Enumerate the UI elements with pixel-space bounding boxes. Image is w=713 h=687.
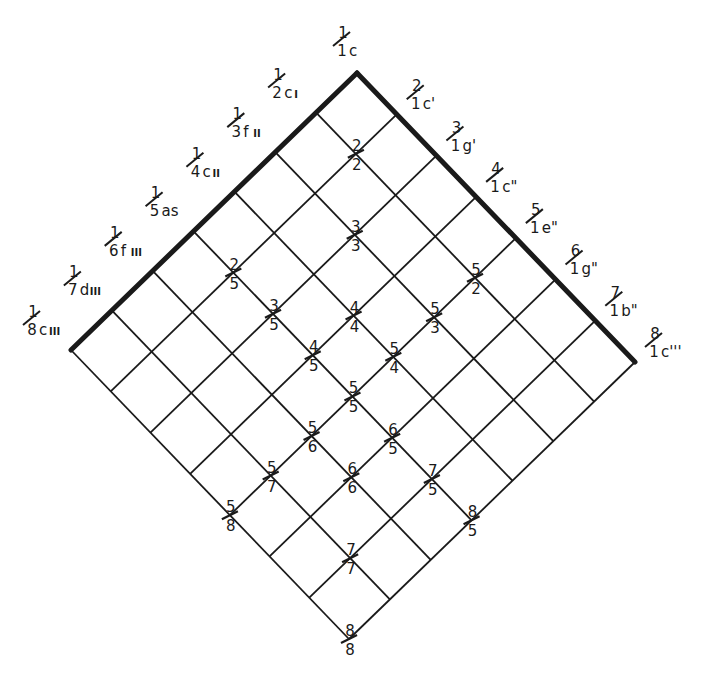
octave-mark: III bbox=[131, 247, 142, 258]
edge-label-undertone: 18cIII bbox=[23, 303, 60, 339]
octave-mark: III bbox=[49, 326, 60, 337]
grid-line-denominator-direction bbox=[150, 156, 436, 433]
interior-ratio: 56 bbox=[304, 416, 320, 456]
edge-label-overtone: 31g' bbox=[446, 119, 476, 155]
interior-ratio: 33 bbox=[347, 215, 363, 255]
denominator: 2 bbox=[471, 280, 481, 298]
octave-mark: II bbox=[212, 168, 219, 179]
note-name: g' bbox=[462, 137, 476, 155]
octave-mark: I bbox=[294, 89, 298, 100]
denominator: 1 bbox=[610, 302, 620, 320]
note-name: e" bbox=[542, 219, 558, 237]
edge-label-overtone: 21c' bbox=[407, 77, 435, 113]
denominator: 2 bbox=[272, 84, 282, 102]
denominator: 2 bbox=[352, 156, 362, 174]
overtone-edge bbox=[357, 73, 635, 362]
denominator: 6 bbox=[109, 242, 119, 260]
interior-ratio: 85 bbox=[464, 500, 480, 540]
interior-ratio-labels: 22334455667788253545565758525354657585 bbox=[222, 134, 483, 659]
edge-label-undertone: 16fIII bbox=[105, 224, 142, 260]
denominator: 4 bbox=[191, 163, 201, 181]
interior-ratio: 35 bbox=[265, 294, 281, 334]
edge-label-undertone: 15as bbox=[146, 184, 179, 220]
denominator: 8 bbox=[27, 321, 37, 339]
interior-ratio: 52 bbox=[467, 258, 483, 298]
octave-mark: II bbox=[253, 128, 260, 139]
denominator: 5 bbox=[230, 275, 240, 293]
note-name: c bbox=[349, 42, 357, 60]
denominator: 5 bbox=[428, 481, 438, 499]
denominator: 1 bbox=[337, 42, 347, 60]
denominator: 5 bbox=[150, 202, 160, 220]
edge-label-top: 11c bbox=[333, 24, 357, 60]
denominator: 1 bbox=[530, 219, 540, 237]
interior-ratio: 44 bbox=[346, 296, 362, 336]
edge-label-undertone: 13fII bbox=[227, 105, 260, 141]
denominator: 5 bbox=[468, 522, 478, 540]
edge-label-undertone: 12cI bbox=[268, 66, 298, 102]
interior-ratio: 88 bbox=[341, 619, 357, 659]
note-name: f bbox=[243, 123, 249, 141]
edge-label-overtone: 61g" bbox=[566, 242, 598, 278]
edge-label-overtone: 71b" bbox=[605, 284, 637, 320]
note-name: b" bbox=[621, 302, 637, 320]
grid-line-numerator-direction bbox=[153, 271, 431, 560]
octave-mark: III bbox=[90, 286, 101, 297]
interior-ratio: 55 bbox=[344, 376, 360, 416]
interior-ratio: 75 bbox=[424, 459, 440, 499]
note-name: d bbox=[80, 281, 90, 299]
denominator: 5 bbox=[269, 316, 279, 334]
note-name: c bbox=[284, 84, 292, 102]
denominator: 3 bbox=[430, 319, 440, 337]
interior-ratio: 54 bbox=[385, 337, 401, 377]
note-name: c" bbox=[502, 178, 517, 196]
interior-ratio: 58 bbox=[222, 495, 238, 535]
interior-ratio: 45 bbox=[305, 335, 321, 375]
note-name: c bbox=[39, 321, 47, 339]
denominator: 3 bbox=[351, 237, 361, 255]
denominator: 1 bbox=[451, 137, 461, 155]
denominator: 7 bbox=[346, 560, 356, 578]
denominator: 5 bbox=[349, 398, 359, 416]
grid-line-numerator-direction bbox=[71, 350, 349, 639]
denominator: 8 bbox=[345, 641, 355, 659]
interior-ratio: 25 bbox=[225, 253, 241, 293]
grid-line-denominator-direction bbox=[349, 362, 635, 639]
note-name: c''' bbox=[661, 343, 682, 361]
denominator: 4 bbox=[350, 318, 360, 336]
denominator: 5 bbox=[388, 440, 398, 458]
denominator: 5 bbox=[309, 357, 319, 375]
undertone-edge bbox=[71, 73, 357, 350]
interior-ratio: 57 bbox=[263, 456, 279, 496]
denominator: 6 bbox=[348, 479, 358, 497]
edge-label-overtone: 41c" bbox=[486, 160, 517, 196]
denominator: 1 bbox=[570, 260, 580, 278]
note-name: c bbox=[202, 163, 210, 181]
edge-label-overtone: 51e" bbox=[526, 201, 558, 237]
interior-ratio: 53 bbox=[426, 297, 442, 337]
ratio-lattice-diagram: 11c12cI13fII14cII15as16fIII17dIII18cIII2… bbox=[0, 0, 713, 687]
interior-ratio: 22 bbox=[348, 134, 364, 174]
edge-label-undertone: 17dIII bbox=[64, 263, 101, 299]
denominator: 6 bbox=[308, 438, 318, 456]
denominator: 8 bbox=[226, 517, 236, 535]
denominator: 4 bbox=[390, 359, 400, 377]
edge-label-overtone: 81c''' bbox=[645, 325, 682, 361]
interior-ratio: 66 bbox=[343, 457, 359, 497]
grid-line-numerator-direction bbox=[234, 192, 512, 481]
denominator: 1 bbox=[411, 95, 421, 113]
denominator: 1 bbox=[649, 343, 659, 361]
interior-ratio: 65 bbox=[384, 418, 400, 458]
denominator: 3 bbox=[232, 123, 242, 141]
note-name: c' bbox=[423, 95, 435, 113]
edge-label-undertone: 14cII bbox=[186, 145, 219, 181]
interior-ratio: 77 bbox=[342, 538, 358, 578]
note-name: f bbox=[121, 242, 127, 260]
note-name: as bbox=[162, 202, 179, 220]
denominator: 7 bbox=[267, 478, 277, 496]
note-name: g" bbox=[582, 260, 598, 278]
denominator: 7 bbox=[68, 281, 78, 299]
denominator: 1 bbox=[490, 178, 500, 196]
